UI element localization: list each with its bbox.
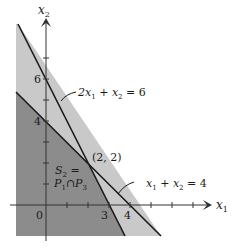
region-label-p1-cap-p3: P1∩P3 — [53, 177, 87, 192]
origin-label: 0 — [36, 209, 43, 222]
x1-tick-label-4: 4 — [124, 209, 131, 222]
intersection-label: (2, 2) — [92, 151, 122, 164]
x1-tick-label-3: 3 — [101, 209, 108, 222]
x2-tick-label-6: 6 — [34, 73, 41, 86]
x2-axis-label: x2 — [38, 3, 50, 19]
feasible-region-diagram: x2 x1 0 3 4 6 4 2x1 + x2 = 6 x1 + x2 = 4… — [0, 0, 240, 249]
equation-label-line2: x1 + x2 = 4 — [146, 177, 207, 192]
x1-axis-label: x1 — [216, 198, 228, 214]
equation-label-line1: 2x1 + x2 = 6 — [77, 86, 146, 101]
x2-tick-label-4: 4 — [34, 115, 41, 128]
